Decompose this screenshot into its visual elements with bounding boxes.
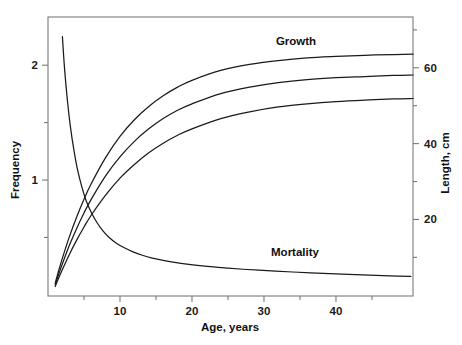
mortality-annotation: Mortality	[271, 246, 320, 258]
x-tick-label: 30	[258, 305, 271, 317]
x-tick-label: 10	[114, 305, 127, 317]
chart-background	[0, 0, 462, 345]
y-right-tick-label: 20	[424, 213, 437, 225]
chart-svg: 10203040 12 204060 Age, years Frequency …	[0, 0, 462, 345]
chart-figure: 10203040 12 204060 Age, years Frequency …	[0, 0, 462, 345]
y-right-axis-title: Length, cm	[439, 132, 451, 193]
x-tick-label: 20	[186, 305, 199, 317]
growth-annotation: Growth	[276, 35, 316, 47]
x-tick-label: 40	[330, 305, 343, 317]
y-left-axis-title: Frequency	[9, 140, 21, 199]
x-axis-title: Age, years	[201, 321, 259, 333]
y-left-tick-label: 1	[32, 174, 39, 186]
y-right-tick-label: 60	[424, 62, 437, 74]
y-right-tick-label: 40	[424, 138, 437, 150]
y-left-tick-label: 2	[32, 59, 38, 71]
